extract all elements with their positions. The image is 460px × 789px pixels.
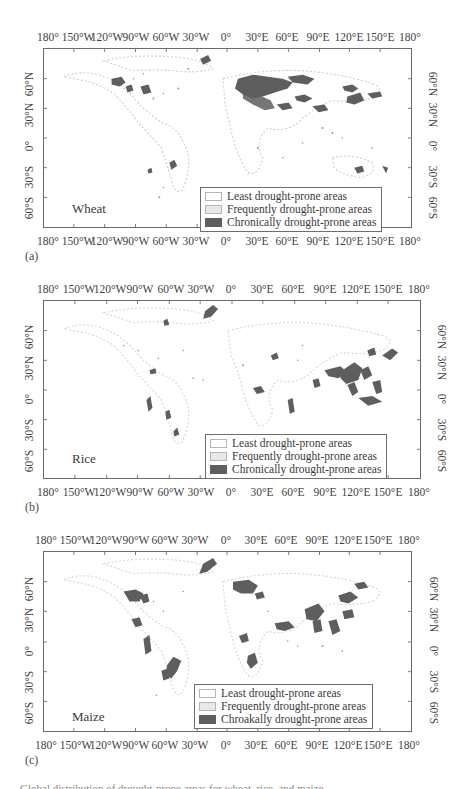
x-tick: 180° <box>35 534 57 546</box>
x-tick: 180° <box>35 739 57 751</box>
x-tick: 0° <box>221 534 231 546</box>
x-tick: 150°E <box>364 534 393 546</box>
y-tick: 60°N <box>428 577 440 601</box>
crop-label-maize: Maize <box>72 709 104 725</box>
legend-item-frequent: Frequently drought-prone areas <box>199 700 367 713</box>
x-tick: 120°W <box>90 739 123 751</box>
x-tick: 180° <box>398 534 420 546</box>
y-tick: 60°S <box>428 702 440 725</box>
x-tick: 120°E <box>334 534 363 546</box>
x-tick: 60°E <box>274 534 297 546</box>
x-tick: 120°E <box>334 739 363 751</box>
legend-item-least: Least drought-prone areas <box>199 687 367 700</box>
panel-maize: 180° 150°W 120°W 90°W 60°W 30°W 0° 30°E … <box>0 0 460 789</box>
x-tick: 60°E <box>274 739 297 751</box>
swatch-least <box>199 689 216 698</box>
x-tick: 150°E <box>364 739 393 751</box>
x-tick: 60°W <box>152 739 179 751</box>
x-tick: 150°W <box>60 534 93 546</box>
swatch-chronic <box>199 715 216 724</box>
x-tick: 0° <box>221 739 231 751</box>
x-axis-top-labels: 180° 150°W 120°W 90°W 60°W 30°W 0° 30°E … <box>0 534 460 548</box>
y-tick: 60°S <box>23 702 35 725</box>
y-tick: 0° <box>428 646 440 656</box>
x-tick: 30°E <box>244 739 267 751</box>
y-axis-left-labels: 60°N 30°N 0° 30°S 60°S <box>22 551 36 732</box>
legend-item-chronic: Chroakally drought-prone areas <box>199 713 367 726</box>
legend-maize: Least drought-prone areas Frequently dro… <box>194 684 373 729</box>
swatch-frequent <box>199 702 216 711</box>
x-tick: 150°W <box>60 739 93 751</box>
x-tick: 30°E <box>244 534 267 546</box>
x-tick: 90°E <box>305 739 328 751</box>
y-tick: 60°N <box>23 577 35 601</box>
legend-label: Chroakally drought-prone areas <box>221 713 367 726</box>
panel-tag-c: (c) <box>25 753 38 768</box>
map-frame-maize: Maize Least drought-prone areas Frequent… <box>43 551 412 732</box>
y-tick: 30°S <box>428 671 440 694</box>
x-tick: 120°W <box>90 534 123 546</box>
y-tick: 30°N <box>428 608 440 632</box>
x-tick: 90°E <box>305 534 328 546</box>
x-tick: 90°W <box>123 534 150 546</box>
y-tick: 30°N <box>23 608 35 632</box>
x-tick: 30°W <box>182 534 209 546</box>
x-tick: 60°W <box>152 534 179 546</box>
x-tick: 30°W <box>182 739 209 751</box>
legend-label: Least drought-prone areas <box>221 687 341 700</box>
y-axis-right-labels: 60°N 30°N 0° 30°S 60°S <box>427 551 441 732</box>
x-axis-bottom-labels: 180° 150°W 120°W 90°W 60°W 30°W 0° 30°E … <box>0 739 460 753</box>
y-tick: 0° <box>23 646 35 656</box>
y-tick: 30°S <box>23 671 35 694</box>
x-tick: 180° <box>398 739 420 751</box>
x-tick: 90°W <box>123 739 150 751</box>
figure-caption-clipped: Global distribution of drought-prone are… <box>20 781 450 789</box>
legend-label: Frequently drought-prone areas <box>221 700 366 713</box>
